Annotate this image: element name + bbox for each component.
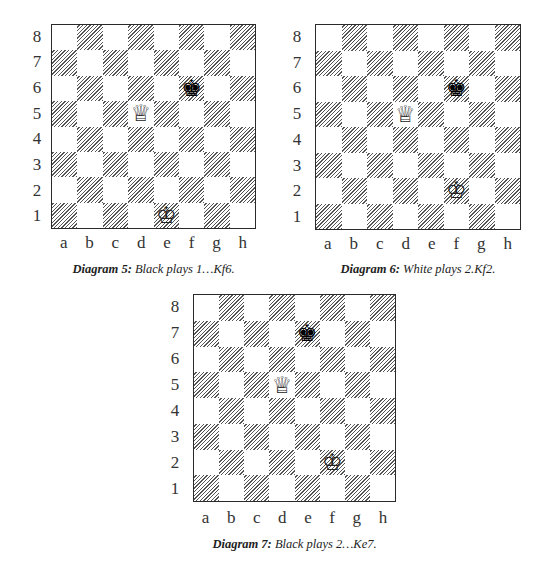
square-b1 [342,204,368,230]
rank-labels: 87654321 [290,24,304,230]
square-d2 [393,178,419,204]
white-king-icon: ♔ [322,451,343,474]
file-label: c [376,234,384,254]
rank-label: 4 [171,401,180,421]
square-f8 [444,25,470,51]
square-e7: ♚ [295,321,320,347]
square-g1 [345,475,370,501]
caption-label: Diagram 6: [341,262,400,276]
rank-label: 1 [293,207,302,227]
rank-label: 8 [293,27,302,47]
square-c1 [103,203,128,228]
file-label: d [401,234,410,254]
square-a1 [194,475,219,501]
square-f2: ♔ [320,450,345,476]
square-a5 [194,372,219,398]
square-e4 [154,127,179,152]
square-e8 [418,25,444,51]
square-c8 [367,25,393,51]
square-c5 [244,372,269,398]
file-label: g [477,234,486,254]
square-b7 [219,321,244,347]
square-h1 [230,203,255,228]
rank-label: 3 [171,427,180,447]
square-f3 [179,152,204,177]
square-b3 [219,424,244,450]
rank-label: 6 [33,78,42,98]
rank-label: 3 [293,156,302,176]
square-e3 [418,153,444,179]
square-e7 [154,50,179,75]
file-label: e [163,233,171,253]
square-f7 [320,321,345,347]
square-d8 [269,295,294,321]
square-g2 [345,450,370,476]
rank-label: 2 [171,453,180,473]
black-king-icon: ♚ [297,322,318,345]
square-b5 [77,101,102,126]
square-e1 [295,475,320,501]
rank-label: 6 [171,349,180,369]
square-c7 [103,50,128,75]
rank-label: 7 [293,53,302,73]
square-f3 [320,424,345,450]
square-d6 [269,347,294,373]
square-b2 [77,177,102,202]
square-e5 [418,102,444,128]
square-a3 [52,152,77,177]
rank-label: 6 [293,78,302,98]
caption-text: Black plays 1…Kf6. [132,262,235,276]
square-g4 [345,398,370,424]
square-b8 [219,295,244,321]
square-b3 [77,152,102,177]
square-c4 [103,127,128,152]
square-c6 [244,347,269,373]
rank-label: 1 [171,479,180,499]
square-f6 [320,347,345,373]
square-f4 [444,127,470,153]
file-label: d [137,233,146,253]
square-a4 [316,127,342,153]
square-d1 [393,204,419,230]
square-g5 [469,102,495,128]
rank-label: 2 [33,181,42,201]
rank-label: 5 [171,375,180,395]
square-h8 [495,25,521,51]
square-d6 [393,76,419,102]
square-c6 [367,76,393,102]
square-d6 [128,76,153,101]
square-h6 [370,347,395,373]
square-c5 [103,101,128,126]
square-g6 [204,76,229,101]
square-a4 [194,398,219,424]
square-h5 [230,101,255,126]
rank-label: 1 [33,206,42,226]
square-h2 [230,177,255,202]
square-d7 [269,321,294,347]
file-labels: abcdefgh [315,234,521,254]
square-f1 [320,475,345,501]
square-f4 [179,127,204,152]
square-g8 [345,295,370,321]
square-g6 [345,347,370,373]
square-e5 [154,101,179,126]
square-f4 [320,398,345,424]
chess-board: ♚♕♔ [51,24,256,229]
square-e6 [154,76,179,101]
square-g7 [469,51,495,77]
square-b7 [77,50,102,75]
file-label: g [212,233,221,253]
diagram-caption: Diagram 7: Black plays 2…Ke7. [193,537,396,552]
square-d2 [269,450,294,476]
white-king-icon: ♔ [446,179,467,202]
rank-label: 8 [33,27,42,47]
square-e3 [295,424,320,450]
diagram-caption: Diagram 5: Black plays 1…Kf6. [51,262,256,277]
square-b7 [342,51,368,77]
square-b1 [77,203,102,228]
square-b4 [77,127,102,152]
square-d7 [393,51,419,77]
rank-label: 7 [171,323,180,343]
square-e4 [418,127,444,153]
square-g8 [204,25,229,50]
